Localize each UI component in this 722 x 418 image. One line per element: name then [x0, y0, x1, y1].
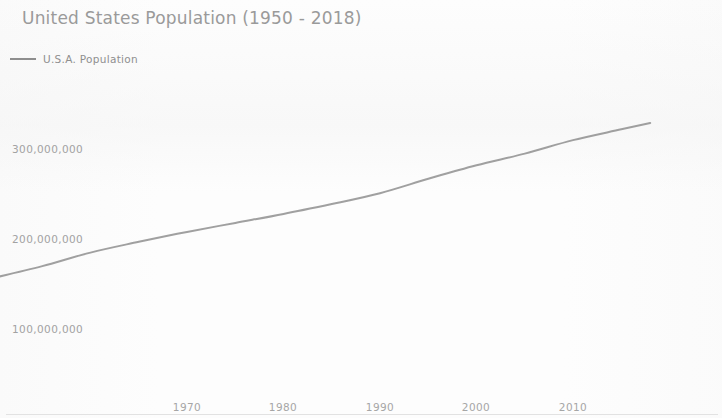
x-axis-tick-label: 2000	[462, 401, 490, 413]
x-axis-tick-label: 1990	[366, 401, 394, 413]
x-axis-rule	[6, 414, 718, 415]
y-axis-tick-label: 200,000,000	[12, 233, 83, 245]
x-axis-tick-label: 1980	[269, 401, 297, 413]
y-axis-tick-label: 100,000,000	[12, 323, 83, 335]
legend-item-label: U.S.A. Population	[43, 53, 138, 65]
chart-container: United States Population (1950 - 2018) U…	[0, 0, 722, 418]
x-axis-tick-label: 1970	[173, 401, 201, 413]
chart-legend: U.S.A. Population	[10, 53, 138, 65]
x-axis-tick-label: 2010	[559, 401, 587, 413]
y-axis-tick-label: 300,000,000	[12, 143, 83, 155]
line-marker-icon	[10, 58, 36, 60]
chart-title: United States Population (1950 - 2018)	[22, 8, 362, 28]
data-series-line-usa-population	[0, 123, 650, 278]
